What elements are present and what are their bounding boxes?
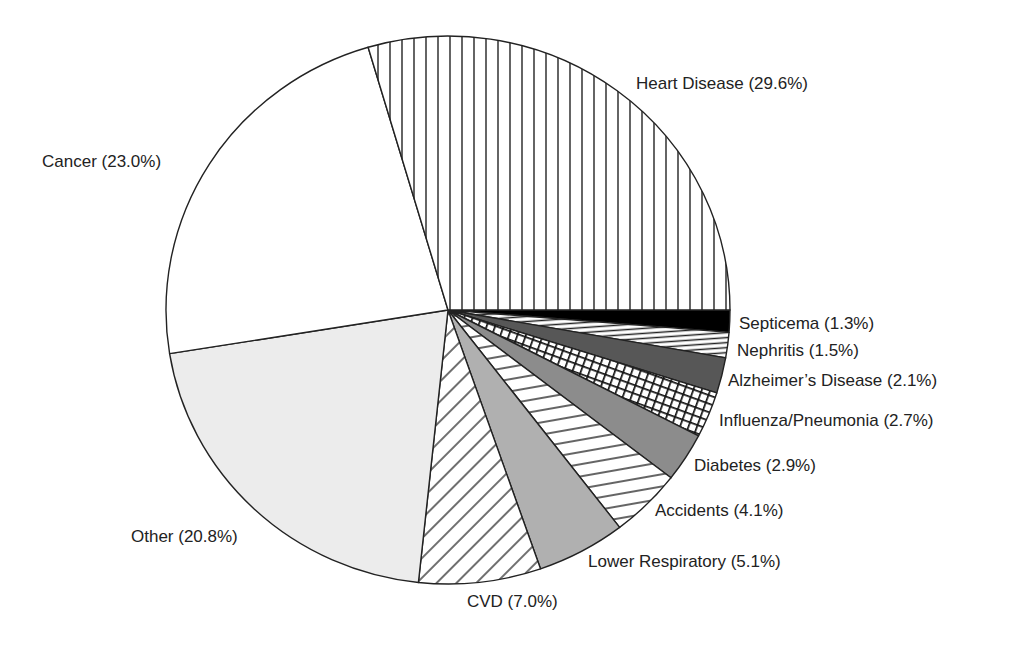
label-other: Other (20.8%) [131, 527, 238, 546]
label-accidents: Accidents (4.1%) [655, 501, 784, 520]
label-cvd: CVD (7.0%) [467, 592, 558, 611]
label-nephritis: Nephritis (1.5%) [737, 341, 859, 360]
label-influenza: Influenza/Pneumonia (2.7%) [719, 411, 934, 430]
label-cancer: Cancer (23.0%) [42, 152, 161, 171]
label-septicema: Septicema (1.3%) [739, 314, 874, 333]
label-lower-respiratory: Lower Respiratory (5.1%) [588, 552, 781, 571]
label-alzheimers: Alzheimer’s Disease (2.1%) [728, 371, 937, 390]
label-heart-disease: Heart Disease (29.6%) [636, 74, 808, 93]
pie-slices [166, 36, 730, 584]
pie-chart: Heart Disease (29.6%) Cancer (23.0%) Sep… [0, 0, 1029, 646]
label-diabetes: Diabetes (2.9%) [694, 456, 816, 475]
